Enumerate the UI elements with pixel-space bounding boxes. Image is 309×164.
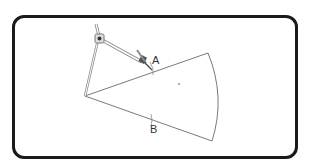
ray-b [85,96,212,141]
compass-icon [85,24,152,96]
center-point [178,83,180,85]
sector-arc [208,53,218,141]
label-a: A [152,54,160,66]
label-b: B [150,123,157,135]
angle-construction-diagram: A B [0,0,309,164]
ray-a [85,53,208,96]
